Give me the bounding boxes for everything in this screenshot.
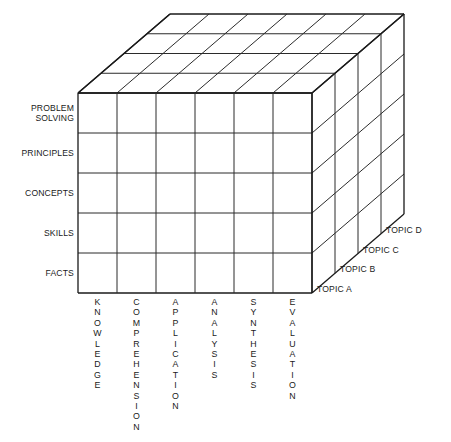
- column-label-letter: U: [289, 339, 295, 349]
- cube-geometry: [78, 14, 404, 293]
- column-label-letter: I: [291, 370, 293, 380]
- row-label-skills: SKILLS: [44, 228, 74, 238]
- column-label-letter: O: [133, 411, 140, 421]
- topic-label-topic-c: TOPIC C: [363, 245, 399, 255]
- column-label-letter: N: [94, 307, 100, 317]
- column-label-letter: C: [172, 349, 179, 359]
- column-label-letter: H: [250, 339, 256, 349]
- column-label-evaluation: EVALUATION: [289, 297, 296, 401]
- column-label-letter: G: [94, 370, 101, 380]
- column-label-letter: E: [95, 380, 101, 390]
- row-label-line: SOLVING: [35, 113, 74, 123]
- column-label-letter: H: [133, 359, 139, 369]
- row-label-line: PRINCIPLES: [21, 148, 74, 158]
- row-label-line: FACTS: [46, 268, 75, 278]
- column-label-application: APPLICATION: [172, 297, 179, 411]
- column-label-letter: O: [172, 391, 179, 401]
- column-label-letter: E: [134, 349, 140, 359]
- column-label-synthesis: SYNTHESIS: [250, 297, 256, 390]
- column-label-letter: L: [290, 328, 295, 338]
- column-label-letter: V: [290, 307, 296, 317]
- column-label-letter: D: [94, 359, 100, 369]
- column-label-letter: K: [95, 297, 101, 307]
- column-label-letter: W: [93, 328, 102, 338]
- column-label-letter: I: [174, 380, 176, 390]
- column-label-letter: T: [290, 359, 296, 369]
- column-label-letter: A: [212, 318, 218, 328]
- column-label-letter: E: [95, 349, 101, 359]
- column-label-letter: A: [290, 349, 296, 359]
- topic-label-topic-a: TOPIC A: [317, 284, 352, 294]
- row-label-problem-solving: PROBLEMSOLVING: [31, 103, 74, 123]
- topic-label-topic-d: TOPIC D: [386, 225, 422, 235]
- topic-label-topic-b: TOPIC B: [340, 264, 375, 274]
- column-label-letter: I: [135, 401, 137, 411]
- row-label-concepts: CONCEPTS: [25, 188, 74, 198]
- column-label-letter: S: [251, 359, 257, 369]
- column-label-letter: P: [134, 328, 140, 338]
- column-label-letter: N: [133, 380, 139, 390]
- column-label-letter: I: [252, 370, 254, 380]
- column-label-letter: S: [251, 380, 257, 390]
- row-label-principles: PRINCIPLES: [21, 148, 74, 158]
- column-label-letter: N: [289, 391, 295, 401]
- row-labels-group: PROBLEMSOLVINGPRINCIPLESCONCEPTSSKILLSFA…: [21, 103, 74, 278]
- column-label-letter: M: [133, 318, 140, 328]
- column-label-letter: A: [290, 318, 296, 328]
- column-label-letter: T: [251, 328, 257, 338]
- row-label-line: CONCEPTS: [25, 188, 74, 198]
- column-label-letter: P: [173, 307, 179, 317]
- column-label-letter: L: [173, 328, 178, 338]
- column-label-letter: A: [212, 297, 218, 307]
- column-label-letter: Y: [212, 339, 218, 349]
- column-label-letter: A: [173, 297, 179, 307]
- column-label-letter: E: [290, 297, 296, 307]
- bloom-taxonomy-cube-figure: PROBLEMSOLVINGPRINCIPLESCONCEPTSSKILLSFA…: [0, 0, 451, 442]
- column-label-letter: N: [133, 422, 139, 432]
- column-label-letter: N: [250, 318, 256, 328]
- column-label-letter: T: [173, 370, 179, 380]
- column-label-letter: P: [173, 318, 179, 328]
- column-label-letter: O: [94, 318, 101, 328]
- column-label-letter: L: [212, 328, 217, 338]
- column-label-letter: A: [173, 359, 179, 369]
- column-label-letter: L: [95, 339, 100, 349]
- column-label-letter: E: [251, 349, 257, 359]
- column-label-letter: C: [133, 297, 140, 307]
- column-label-letter: N: [172, 401, 178, 411]
- row-label-line: PROBLEM: [31, 103, 74, 113]
- column-label-knowledge: KNOWLEDGE: [93, 297, 102, 390]
- column-label-letter: S: [251, 297, 257, 307]
- column-label-letter: S: [212, 349, 218, 359]
- column-labels-group: KNOWLEDGECOMPREHENSIONAPPLICATIONANALYSI…: [93, 297, 296, 432]
- row-label-facts: FACTS: [46, 268, 75, 278]
- column-label-letter: O: [289, 380, 296, 390]
- column-label-letter: E: [134, 370, 140, 380]
- column-label-letter: R: [133, 339, 139, 349]
- column-label-analysis: ANALYSIS: [211, 297, 217, 380]
- column-label-comprehension: COMPREHENSION: [133, 297, 140, 432]
- cube-diagram: PROBLEMSOLVINGPRINCIPLESCONCEPTSSKILLSFA…: [0, 0, 451, 442]
- column-label-letter: Y: [251, 307, 257, 317]
- column-label-letter: I: [174, 339, 176, 349]
- column-label-letter: I: [213, 359, 215, 369]
- column-label-letter: S: [134, 391, 140, 401]
- column-label-letter: N: [211, 307, 217, 317]
- column-label-letter: S: [212, 370, 218, 380]
- column-label-letter: O: [133, 307, 140, 317]
- row-label-line: SKILLS: [44, 228, 74, 238]
